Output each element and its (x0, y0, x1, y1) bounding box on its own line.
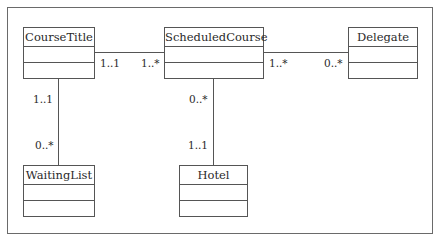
operations-compartment (24, 201, 94, 216)
mult-delegate-from-scheduled: 0..* (324, 57, 343, 69)
class-coursetitle[interactable]: CourseTitle (23, 27, 95, 79)
assoc-scheduledcourse-hotel (213, 78, 214, 165)
operations-compartment (180, 201, 247, 216)
mult-coursetitle-to-waitinglist: 1..1 (33, 93, 53, 105)
class-scheduledcourse[interactable]: ScheduledCourse (164, 27, 264, 79)
mult-waitinglist-from-coursetitle: 0..* (35, 139, 54, 151)
mult-coursetitle-to-scheduled: 1..1 (100, 57, 120, 69)
class-name: WaitingList (24, 166, 94, 185)
mult-scheduled-to-hotel: 0..* (189, 93, 208, 105)
class-delegate[interactable]: Delegate (348, 27, 418, 79)
class-name: CourseTitle (24, 28, 94, 47)
class-waitinglist[interactable]: WaitingList (23, 165, 95, 217)
attributes-compartment (24, 47, 94, 63)
mult-scheduled-to-delegate: 1..* (269, 57, 288, 69)
operations-compartment (349, 63, 417, 78)
assoc-coursetitle-waitinglist (58, 78, 59, 165)
attributes-compartment (24, 185, 94, 201)
mult-scheduled-from-coursetitle: 1..* (141, 57, 160, 69)
assoc-coursetitle-scheduledcourse (94, 52, 164, 53)
operations-compartment (24, 63, 94, 78)
assoc-scheduledcourse-delegate (263, 52, 348, 53)
class-name: ScheduledCourse (165, 28, 263, 47)
class-name: Delegate (349, 28, 417, 47)
class-hotel[interactable]: Hotel (179, 165, 248, 217)
mult-hotel-from-scheduled: 1..1 (188, 139, 208, 151)
attributes-compartment (180, 185, 247, 201)
class-name: Hotel (180, 166, 247, 185)
operations-compartment (165, 63, 263, 78)
attributes-compartment (165, 47, 263, 63)
attributes-compartment (349, 47, 417, 63)
